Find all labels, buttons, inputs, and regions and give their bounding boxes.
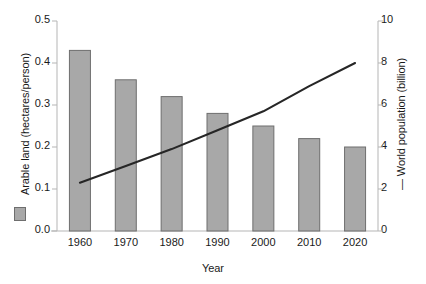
bar-series — [69, 50, 365, 231]
chart-container: Arable land (hectares/person) — World po… — [0, 0, 426, 284]
bar-1970 — [115, 80, 136, 231]
bar-2010 — [299, 139, 320, 231]
bar-2000 — [253, 126, 274, 231]
bar-1980 — [161, 97, 182, 231]
bar-1960 — [69, 50, 90, 231]
bar-2020 — [345, 147, 366, 231]
plot-area — [0, 0, 426, 284]
